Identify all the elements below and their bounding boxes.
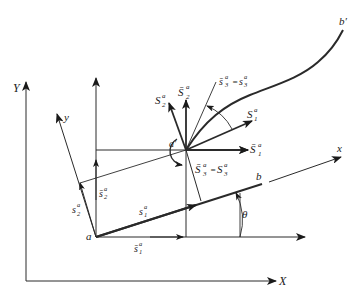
beam-kinematics-diagram: Y X y x θ a a′ b b′ S 2 — [0, 0, 362, 294]
svg-text:s̄: s̄ — [134, 243, 138, 254]
svg-text:a: a — [244, 73, 247, 80]
svg-text:1: 1 — [139, 248, 142, 255]
svg-text:a: a — [162, 92, 166, 100]
svg-text:S: S — [155, 94, 161, 106]
svg-text:a: a — [203, 161, 207, 169]
Sbar2-label: S̄ 2 a — [178, 83, 190, 101]
svg-text:S̄: S̄ — [250, 143, 256, 155]
svg-text:=: = — [210, 165, 216, 175]
svg-text:a: a — [144, 203, 147, 210]
svg-text:2: 2 — [162, 101, 166, 109]
sbar1-label: s̄ 1 a — [134, 240, 142, 255]
s1-label: s 1 a — [139, 203, 147, 218]
svg-text:3: 3 — [224, 81, 229, 88]
sbar2-label: s̄ 2 a — [99, 185, 108, 200]
point-b-prime-label: b′ — [339, 15, 348, 27]
svg-text:1: 1 — [254, 115, 258, 123]
svg-text:S: S — [217, 163, 223, 175]
global-x-label: X — [278, 274, 287, 288]
svg-text:a: a — [104, 185, 107, 192]
Sbar1-label: S̄ 1 a — [250, 141, 262, 158]
svg-text:a: a — [225, 73, 228, 80]
svg-text:S̄: S̄ — [195, 163, 201, 175]
s2-label: s 2 a — [72, 201, 81, 217]
svg-text:a: a — [139, 240, 142, 247]
svg-text:s: s — [239, 76, 243, 87]
point-a-label: a — [86, 230, 92, 242]
tangent-angle-arc — [207, 106, 232, 129]
global-y-label: Y — [13, 81, 21, 95]
svg-text:a: a — [77, 201, 80, 208]
S2-label: S 2 a — [155, 92, 166, 109]
svg-text:a: a — [186, 83, 190, 91]
point-a-prime-label: a′ — [169, 138, 177, 149]
svg-text:3: 3 — [202, 170, 207, 178]
svg-text:2: 2 — [104, 193, 108, 200]
svg-text:a: a — [258, 141, 262, 149]
local-y-label: y — [63, 111, 69, 123]
deformed-beam-a-prime-b-prime — [186, 30, 343, 150]
svg-text:S̄: S̄ — [178, 86, 184, 98]
svg-text:a: a — [254, 106, 258, 114]
svg-text:2: 2 — [77, 210, 81, 217]
Sbar3-equals-S3-label: S̄ 3 a = S 3 a — [195, 161, 228, 178]
svg-text:a: a — [224, 161, 228, 169]
sbar3-s3-line — [186, 150, 201, 201]
svg-text:3: 3 — [243, 81, 248, 88]
sbar3-s3-tangent-line — [186, 82, 216, 150]
theta-label: θ — [242, 208, 248, 220]
sbar3-equals-s3-label: s̄ 3 a = s 3 a — [219, 73, 248, 88]
S1-label: S 1 a — [247, 106, 258, 123]
s2-vector — [80, 183, 96, 237]
svg-text:s: s — [139, 206, 143, 217]
local-x-axis — [269, 157, 341, 182]
svg-text:1: 1 — [144, 211, 147, 218]
svg-text:1: 1 — [258, 150, 262, 158]
svg-text:S: S — [247, 108, 253, 120]
svg-text:=: = — [232, 77, 238, 87]
svg-text:s: s — [72, 204, 76, 215]
svg-text:2: 2 — [186, 93, 190, 101]
svg-text:3: 3 — [223, 170, 228, 178]
point-b-label: b — [256, 170, 262, 182]
local-x-label: x — [336, 142, 342, 154]
svg-text:s̄: s̄ — [219, 76, 223, 87]
global-axes: Y X — [13, 81, 287, 288]
svg-text:s̄: s̄ — [99, 188, 103, 199]
